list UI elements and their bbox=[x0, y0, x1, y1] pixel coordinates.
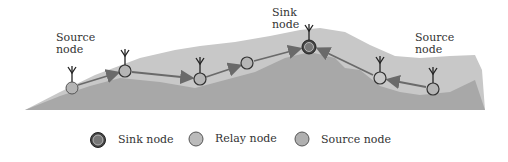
source-node-label-left: Source node bbox=[56, 32, 95, 56]
legend-source-label: Source node bbox=[321, 133, 391, 146]
legend-relay-label: Relay node bbox=[215, 132, 277, 145]
relay-node bbox=[241, 57, 253, 69]
source-node bbox=[427, 83, 439, 95]
source-node-label-right: Source node bbox=[415, 32, 454, 56]
relay-node bbox=[119, 65, 131, 77]
antenna-icon bbox=[121, 49, 129, 65]
legend-source-icon bbox=[295, 132, 309, 146]
relay-node bbox=[194, 73, 206, 85]
legend-sink-label: Sink node bbox=[118, 133, 174, 146]
sink-node-label: Sink node bbox=[272, 7, 299, 31]
legend-sink-icon bbox=[91, 133, 106, 148]
relay-node bbox=[374, 72, 386, 84]
sink-node bbox=[302, 40, 316, 54]
source-node bbox=[66, 82, 78, 94]
antenna-icon bbox=[68, 66, 76, 82]
legend-relay-icon bbox=[189, 132, 203, 146]
